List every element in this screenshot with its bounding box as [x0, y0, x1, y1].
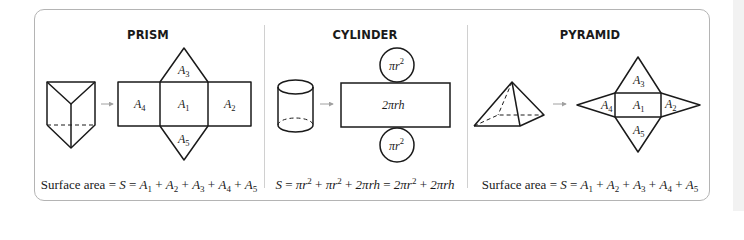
svg-text:A5: A5: [632, 123, 645, 139]
prism-formula: Surface area = S = A1 + A2 + A3 + A4 + A…: [41, 177, 257, 193]
svg-text:πr2: πr2: [389, 56, 404, 73]
svg-text:A5: A5: [177, 132, 190, 148]
svg-text:πr2: πr2: [389, 136, 404, 153]
prism-net-labels: A4 A1 A2 A3 A5: [133, 63, 236, 148]
cylinder-net-labels: πr2 2πrh πr2: [382, 56, 404, 153]
cylinder-3d-shape: [278, 80, 313, 132]
pyramid-net-labels: A4 A1 A2 A3 A5: [600, 73, 677, 139]
svg-text:A2: A2: [664, 97, 677, 113]
pyramid-formula: Surface area = S = A1 + A2 + A3 + A4 + A…: [482, 177, 698, 193]
svg-text:A3: A3: [632, 73, 645, 89]
svg-text:A1: A1: [632, 98, 645, 114]
svg-text:2πrh: 2πrh: [382, 98, 404, 112]
svg-text:A4: A4: [133, 97, 146, 113]
cylinder-formula: S = πr2 + πr2 + 2πrh = 2πr2 + 2πrh: [275, 177, 454, 193]
svg-text:A2: A2: [223, 97, 236, 113]
pyramid-3d-shape: [474, 82, 544, 126]
svg-text:A4: A4: [600, 98, 613, 114]
svg-text:A3: A3: [177, 63, 190, 79]
svg-text:A1: A1: [177, 97, 190, 113]
prism-3d-shape: [47, 82, 95, 148]
